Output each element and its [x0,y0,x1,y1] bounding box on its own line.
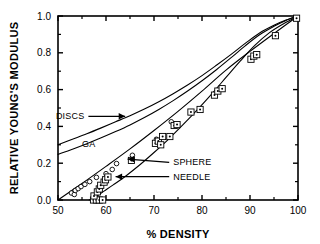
y-axis-title: RELATIVE YOUNG'S MODULUS [8,22,20,195]
data-marker-square-dot [274,35,276,37]
data-marker-square-dot [102,199,104,201]
data-marker-square-dot [256,54,258,56]
y-tick-label: 0.8 [37,47,51,58]
x-tick-label: 50 [52,205,64,216]
y-tick-label: 0.4 [37,121,51,132]
y-tick-label: 0.0 [37,195,51,206]
data-marker-square-dot [176,124,178,126]
data-marker-square-dot [190,111,192,113]
data-marker-circle [87,179,92,184]
annotation-label-ga: GA [82,139,95,149]
data-marker-square-dot [199,108,201,110]
data-marker-square-dot [169,136,171,138]
x-tick-label: 60 [100,205,112,216]
annotation-arrow-head-needle [116,173,123,179]
annotation-label-needle: NEEDLE [173,172,210,182]
data-marker-circle [110,167,115,172]
chart-figure: 50607080901000.00.20.40.60.81.0% DENSITY… [0,0,320,244]
x-tick-label: 100 [290,205,307,216]
annotation-label-sphere: SPHERE [173,157,211,167]
x-tick-label: 80 [196,205,208,216]
y-tick-label: 0.6 [37,84,51,95]
y-tick-label: 1.0 [37,11,51,22]
data-marker-square-dot [160,144,162,146]
data-marker-square-dot [107,176,109,178]
young-modulus-vs-density-chart: 50607080901000.00.20.40.60.81.0% DENSITY… [0,0,320,244]
data-marker-square-dot [296,17,298,19]
data-marker-square-dot [162,136,164,138]
y-tick-label: 0.2 [37,158,51,169]
x-tick-label: 90 [244,205,256,216]
curve-ga [58,16,298,154]
data-marker-circle [114,161,119,166]
data-marker-square-dot [217,90,219,92]
data-marker-square-dot [221,88,223,90]
x-tick-label: 70 [148,205,160,216]
x-axis-title: % DENSITY [146,228,210,240]
annotation-label-discs: DISCS [56,111,85,121]
data-marker-circle [83,182,88,187]
data-marker-circle [94,175,99,180]
